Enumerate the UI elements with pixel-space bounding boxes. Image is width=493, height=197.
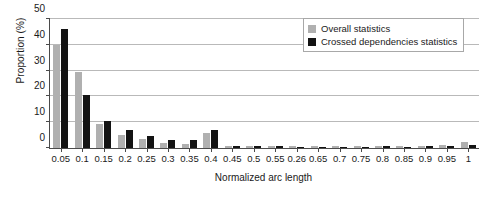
bar [254, 146, 261, 148]
x-tick-label: 0.85 [395, 153, 414, 164]
x-tick-label: 0.3 [161, 153, 174, 164]
x-tick-mark [211, 148, 212, 152]
bar [126, 130, 133, 148]
x-tick-label: 0.9 [419, 153, 432, 164]
x-tick-mark [232, 148, 233, 152]
x-tick-label: 0.65 [309, 153, 328, 164]
legend-item: Crossed dependencies statistics [308, 35, 457, 48]
x-tick-mark [297, 148, 298, 152]
bar-group: 0.1 [71, 19, 92, 148]
bar-group: 0.25 [136, 19, 157, 148]
x-tick-mark [468, 148, 469, 152]
x-tick-label: 0.25 [137, 153, 156, 164]
bar-group: 0.45 [222, 19, 243, 148]
x-tick-mark [104, 148, 105, 152]
y-tick-label: 40 [34, 28, 45, 39]
bar [375, 146, 382, 148]
bar-group: 0.55 [265, 19, 286, 148]
x-tick-mark [189, 148, 190, 152]
x-tick-label: 0.55 [266, 153, 285, 164]
bar [268, 146, 275, 148]
x-tick-label: 0.75 [352, 153, 371, 164]
x-tick-label: 0.95 [438, 153, 457, 164]
bar [319, 147, 326, 148]
x-tick-mark [275, 148, 276, 152]
x-tick-mark [340, 148, 341, 152]
bar-group: 0.4 [200, 19, 221, 148]
bar-group: 0.2 [114, 19, 135, 148]
chart-legend: Overall statisticsCrossed dependencies s… [303, 18, 464, 52]
bar [211, 130, 218, 148]
bar [104, 121, 111, 148]
bar [354, 146, 361, 148]
bar [426, 146, 433, 148]
x-tick-mark [361, 148, 362, 152]
bar [396, 146, 403, 148]
bar [75, 72, 82, 148]
bar [246, 146, 253, 148]
y-tick-label: 50 [34, 3, 45, 14]
bar [118, 135, 125, 148]
x-tick-mark [254, 148, 255, 152]
y-tick-label: 0 [39, 132, 45, 143]
bar-group: 0.35 [179, 19, 200, 148]
bar-group: 0.05 [50, 19, 71, 148]
x-tick-label: 0.5 [247, 153, 260, 164]
legend-label: Crossed dependencies statistics [321, 36, 457, 47]
x-tick-mark [425, 148, 426, 152]
x-tick-mark [383, 148, 384, 152]
x-tick-mark [82, 148, 83, 152]
bar [276, 146, 283, 148]
bar [139, 139, 146, 148]
bar [461, 142, 468, 148]
legend-swatch-icon [308, 25, 316, 33]
x-tick-label: 0.8 [376, 153, 389, 164]
bar [233, 146, 240, 148]
bar [439, 145, 446, 148]
bar [147, 136, 154, 148]
x-tick-mark [404, 148, 405, 152]
bar [469, 145, 476, 148]
bar [160, 143, 167, 148]
bar-group: 0.5 [243, 19, 264, 148]
legend-label: Overall statistics [321, 23, 390, 34]
x-tick-label: 0.2 [118, 153, 131, 164]
bar [83, 95, 90, 148]
x-tick-mark [168, 148, 169, 152]
bar [332, 146, 339, 148]
bar [182, 144, 189, 148]
bar-group: 0.3 [157, 19, 178, 148]
x-tick-label: 0.1 [76, 153, 89, 164]
x-tick-label: 0.35 [180, 153, 199, 164]
bar-chart-figure: Proportion (%) 01020304050 0.050.10.150.… [0, 0, 493, 197]
x-axis-title: Normalized arc length [49, 172, 478, 183]
x-tick-mark [447, 148, 448, 152]
bar [289, 146, 296, 148]
x-tick-mark [318, 148, 319, 152]
x-tick-mark [61, 148, 62, 152]
x-tick-label: 0.7 [333, 153, 346, 164]
x-tick-label: 0.15 [94, 153, 113, 164]
x-tick-label: 0.05 [51, 153, 70, 164]
bar [168, 140, 175, 148]
bar-group: 0.15 [93, 19, 114, 148]
bar [96, 124, 103, 149]
x-tick-label: 0.45 [223, 153, 242, 164]
y-axis-title: Proportion (%) [15, 0, 26, 111]
bar [447, 146, 454, 148]
y-tick-label: 10 [34, 106, 45, 117]
y-tick-label: 20 [34, 80, 45, 91]
legend-item: Overall statistics [308, 22, 457, 35]
bar [203, 133, 210, 148]
legend-swatch-icon [308, 38, 316, 46]
bar [418, 146, 425, 148]
bar [297, 147, 304, 148]
bar [61, 29, 68, 148]
x-tick-mark [147, 148, 148, 152]
y-tick-label: 30 [34, 54, 45, 65]
bar [383, 146, 390, 148]
bar [404, 147, 411, 148]
x-tick-label: 1 [466, 153, 471, 164]
bar [311, 146, 318, 148]
bar [225, 146, 232, 148]
